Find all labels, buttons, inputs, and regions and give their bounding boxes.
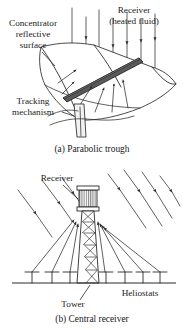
panel-b-central-receiver: Receiver Tower Heliostats (b) Central re… xyxy=(12,170,180,325)
label-receiver-heated-fluid: Receiver (heated fluid) xyxy=(109,5,159,26)
receiver-leader-line-b xyxy=(63,185,78,199)
heliostat xyxy=(99,272,113,283)
caption-panel-b: (b) Central receiver xyxy=(55,314,129,325)
heliostat xyxy=(63,272,77,283)
concentrator-label-line3: surface xyxy=(20,40,47,50)
heliostat xyxy=(136,272,150,283)
panel-a-parabolic-trough: Concentrator reflective surface Receiver… xyxy=(9,5,176,155)
tower-leader-line xyxy=(80,285,90,300)
heliostat xyxy=(153,272,167,283)
lattice-tower xyxy=(77,211,99,283)
receiver-label-line1: Receiver xyxy=(118,5,151,15)
heliostat xyxy=(118,272,132,283)
heliostats-label: Heliostats xyxy=(122,288,159,298)
figure-root: Concentrator reflective surface Receiver… xyxy=(0,0,185,330)
caption-panel-a: (a) Parabolic trough xyxy=(55,144,130,155)
label-tower: Tower xyxy=(61,285,90,309)
receiver-label-b: Receiver xyxy=(41,173,74,183)
concentrator-label-line2: reflective xyxy=(16,29,51,39)
receiver-label-line2: (heated fluid) xyxy=(109,16,159,26)
heliostat xyxy=(25,272,39,283)
heliostat xyxy=(45,272,59,283)
concentrator-label-line1: Concentrator xyxy=(9,18,57,28)
solar-collector-figure: Concentrator reflective surface Receiver… xyxy=(0,0,185,330)
tower-label: Tower xyxy=(61,299,84,309)
tracking-label-line2: mechanism xyxy=(12,107,54,117)
central-receiver-box xyxy=(77,186,99,211)
tracking-label-line1: Tracking xyxy=(17,96,50,106)
incident-ray-tails-b xyxy=(36,190,180,237)
